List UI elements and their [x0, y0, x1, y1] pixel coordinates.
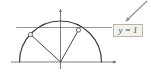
radius-right	[61, 30, 79, 62]
left-intersection-marker	[28, 32, 32, 36]
right-intersection-marker	[76, 28, 80, 32]
radius-left	[31, 35, 61, 63]
math-figure	[0, 0, 151, 82]
label-y-equals-1[interactable]: y = 1	[113, 24, 143, 37]
callout-pointer-arrow-icon	[126, 1, 147, 21]
figure-screenshot: y = 1	[0, 0, 151, 82]
